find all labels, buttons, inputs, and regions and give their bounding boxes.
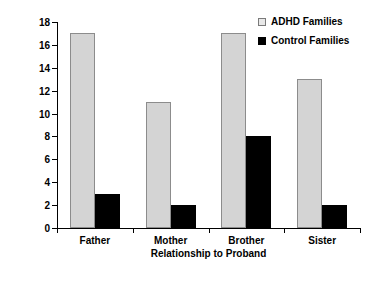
y-tick-label: 16: [39, 39, 50, 50]
y-tick-label: 10: [39, 108, 50, 119]
y-tick-mark: [52, 205, 57, 206]
bar-sister-control-families: [322, 205, 347, 228]
y-tick-mark: [52, 45, 57, 46]
y-tick-label: 4: [44, 177, 50, 188]
x-axis-title: Relationship to Proband: [57, 248, 360, 259]
bar-father-control-families: [95, 194, 120, 228]
y-tick-label: 0: [44, 223, 50, 234]
y-tick-label: 14: [39, 62, 50, 73]
bar-brother-control-families: [246, 136, 271, 228]
bar-mother-adhd-families: [146, 102, 171, 228]
x-category-label-sister: Sister: [308, 235, 336, 246]
y-axis-title: % with ADHD: [0, 0, 26, 281]
chart-container: % with ADHD 024681012141618 FatherMother…: [0, 0, 380, 281]
y-tick-mark: [52, 159, 57, 160]
y-tick-mark: [52, 22, 57, 23]
y-tick-label: 12: [39, 85, 50, 96]
chart-legend: ADHD Families Control Families: [258, 16, 349, 54]
x-tick-mark: [133, 228, 134, 233]
y-tick-mark: [52, 182, 57, 183]
x-tick-mark: [360, 228, 361, 233]
legend-swatch-icon-control: [258, 37, 266, 45]
legend-label-control: Control Families: [271, 35, 349, 46]
x-category-label-brother: Brother: [228, 235, 264, 246]
legend-swatch-icon-adhd: [258, 18, 266, 26]
y-tick-mark: [52, 136, 57, 137]
y-tick-mark: [52, 114, 57, 115]
y-axis-line: [57, 22, 58, 228]
bar-sister-adhd-families: [297, 79, 322, 228]
legend-item-adhd-families: ADHD Families: [258, 16, 349, 27]
y-tick-label: 2: [44, 200, 50, 211]
x-category-label-mother: Mother: [154, 235, 187, 246]
y-tick-label: 18: [39, 17, 50, 28]
x-category-label-father: Father: [80, 235, 111, 246]
legend-label-adhd: ADHD Families: [271, 16, 343, 27]
x-tick-mark: [284, 228, 285, 233]
y-tick-label: 6: [44, 154, 50, 165]
y-tick-label: 8: [44, 131, 50, 142]
bar-brother-adhd-families: [221, 33, 246, 228]
bar-father-adhd-families: [70, 33, 95, 228]
x-tick-mark: [57, 228, 58, 233]
bar-mother-control-families: [171, 205, 196, 228]
y-tick-mark: [52, 68, 57, 69]
y-tick-mark: [52, 91, 57, 92]
x-tick-mark: [209, 228, 210, 233]
y-axis-title-text: % with ADHD: [0, 109, 1, 172]
legend-item-control-families: Control Families: [258, 35, 349, 46]
